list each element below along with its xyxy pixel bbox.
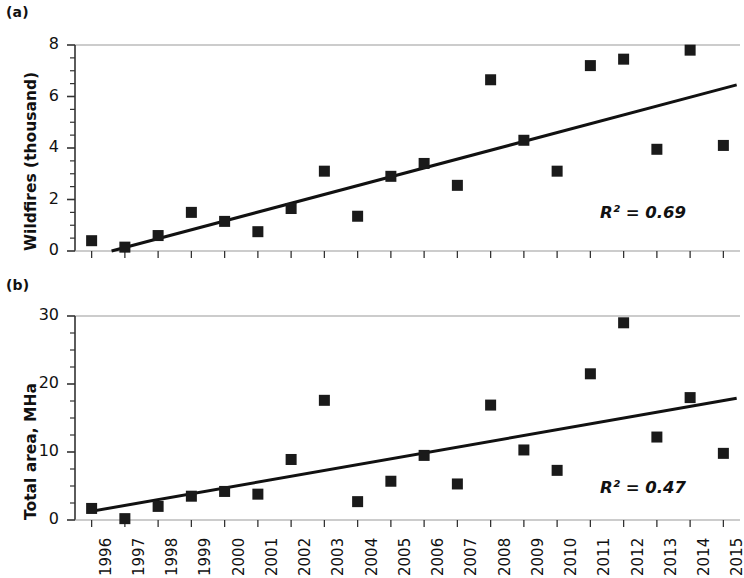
data-point-marker <box>618 317 629 328</box>
data-point-marker <box>419 158 430 169</box>
r-squared-annotation-panel-b: R² = 0.47 <box>600 478 686 497</box>
data-point-marker <box>319 395 330 406</box>
x-tick-label: 2010 <box>564 538 579 576</box>
data-point-marker <box>219 486 230 497</box>
data-point-marker <box>585 60 596 71</box>
x-tick-label: 2009 <box>531 538 546 576</box>
data-point-marker <box>153 501 164 512</box>
x-tick-label: 2015 <box>730 538 744 576</box>
x-tick-label: 2007 <box>464 538 479 576</box>
data-point-marker <box>286 203 297 214</box>
data-point-marker <box>86 235 97 246</box>
r-squared-annotation-panel-a: R² = 0.69 <box>600 203 686 222</box>
x-tick-label: 2001 <box>265 538 280 576</box>
y-tick-label: 4 <box>29 139 59 155</box>
data-point-marker <box>718 448 729 459</box>
data-point-marker <box>252 226 263 237</box>
data-point-marker <box>385 171 396 182</box>
data-point-marker <box>286 454 297 465</box>
y-tick-label: 6 <box>29 88 59 104</box>
x-tick-label: 1997 <box>132 538 147 576</box>
y-tick-label: 8 <box>29 36 59 52</box>
data-point-marker <box>718 140 729 151</box>
data-point-marker <box>119 513 130 524</box>
data-point-marker <box>452 180 463 191</box>
data-point-marker <box>552 465 563 476</box>
panel-a-plot-area <box>67 45 740 258</box>
y-tick-label: 0 <box>29 242 59 258</box>
x-tick-label: 1998 <box>165 538 180 576</box>
data-point-marker <box>685 45 696 56</box>
data-point-marker <box>352 211 363 222</box>
data-point-marker <box>485 74 496 85</box>
y-tick-label: 0 <box>29 511 59 527</box>
x-tick-label: 2003 <box>331 538 346 576</box>
data-point-marker <box>518 135 529 146</box>
data-point-marker <box>651 144 662 155</box>
data-point-marker <box>385 476 396 487</box>
data-point-marker <box>153 230 164 241</box>
x-tick-label: 1999 <box>198 538 213 576</box>
x-tick-label: 2000 <box>232 538 247 576</box>
data-point-marker <box>552 166 563 177</box>
data-point-marker <box>186 207 197 218</box>
x-tick-label: 2011 <box>597 538 612 576</box>
x-tick-label: 2014 <box>697 538 712 576</box>
x-tick-label: 2013 <box>664 538 679 576</box>
x-tick-label: 2004 <box>365 538 380 576</box>
data-point-marker <box>319 166 330 177</box>
x-tick-label: 2005 <box>398 538 413 576</box>
data-point-marker <box>585 368 596 379</box>
data-point-marker <box>252 489 263 500</box>
data-point-marker <box>86 503 97 514</box>
x-tick-label: 2012 <box>631 538 646 576</box>
y-tick-label: 30 <box>29 307 59 323</box>
data-point-marker <box>352 496 363 507</box>
data-point-marker <box>651 432 662 443</box>
data-point-marker <box>518 444 529 455</box>
data-point-marker <box>219 216 230 227</box>
data-point-marker <box>419 450 430 461</box>
x-tick-label: 2008 <box>498 538 513 576</box>
y-tick-label: 10 <box>29 443 59 459</box>
y-tick-label: 20 <box>29 375 59 391</box>
data-point-marker <box>119 242 130 253</box>
data-point-marker <box>618 54 629 65</box>
figure-wildfires-trends: (a) Wildfires (thousand) R² = 0.69 (b) T… <box>0 0 744 578</box>
data-point-marker <box>685 392 696 403</box>
panel-label-a: (a) <box>6 4 29 20</box>
x-tick-label: 2006 <box>431 538 446 576</box>
data-point-marker <box>186 491 197 502</box>
x-tick-label: 1996 <box>99 538 114 576</box>
data-point-marker <box>485 400 496 411</box>
x-tick-label: 2002 <box>298 538 313 576</box>
data-point-marker <box>452 478 463 489</box>
panel-label-b: (b) <box>6 277 29 293</box>
y-tick-label: 2 <box>29 191 59 207</box>
